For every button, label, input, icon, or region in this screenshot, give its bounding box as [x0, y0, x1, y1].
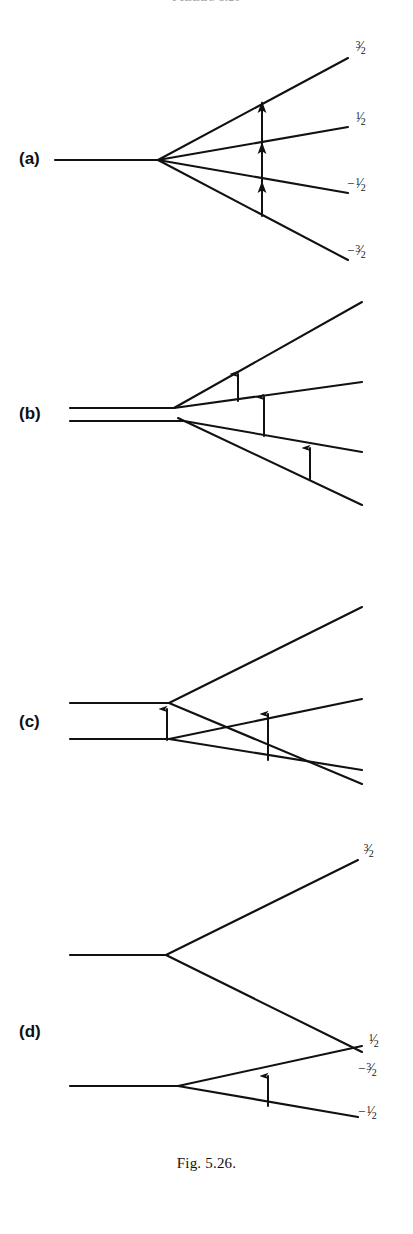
fraction-denominator: 2 [361, 182, 366, 193]
panel-c-levels [70, 607, 362, 784]
minus-sign: − [358, 1061, 366, 1076]
panel-b-branch-4 [178, 418, 362, 505]
level-label-d-1-2: 1⁄2 [368, 1033, 380, 1047]
panel-d-branch-1-2 [166, 955, 362, 1052]
panel-d-branch-m3-2 [178, 1046, 362, 1086]
figure-caption: Fig. 5.26. [0, 1155, 413, 1172]
panel-a-levels [55, 58, 348, 260]
level-label-a-m3-2: −3⁄2 [347, 244, 367, 258]
minus-sign: − [347, 176, 355, 191]
level-label-a-3-2: 3⁄2 [355, 40, 367, 54]
level-label-a-1-2: 1⁄2 [355, 111, 367, 125]
fraction-denominator: 2 [372, 1067, 377, 1078]
panel-b-branch-1 [174, 302, 362, 408]
panel-letter-d: (d) [19, 1022, 41, 1042]
level-label-d-3-2: 3⁄2 [363, 843, 375, 857]
fraction-denominator: 2 [369, 848, 374, 859]
fraction-denominator: 2 [374, 1038, 379, 1049]
minus-sign: − [347, 243, 355, 258]
panel-b-levels [70, 302, 362, 505]
fraction-denominator: 2 [361, 116, 366, 127]
panel-d-levels [70, 860, 362, 1117]
fraction-denominator: 2 [372, 1110, 377, 1121]
level-label-d-m3-2: −3⁄2 [358, 1062, 378, 1076]
panel-letter-a: (a) [19, 149, 40, 169]
fraction-denominator: 2 [361, 45, 366, 56]
panel-letter-c: (c) [19, 712, 40, 732]
panel-c-branch-3 [169, 699, 362, 739]
panel-d-branch-3-2 [166, 860, 358, 955]
level-label-a-m1-2: −1⁄2 [347, 177, 367, 191]
panel-a-branch-m3-2 [158, 160, 348, 260]
panel-letter-b: (b) [19, 404, 41, 424]
panel-a-branch-3-2 [158, 58, 348, 160]
minus-sign: − [358, 1104, 366, 1119]
panel-b-branch-2 [174, 382, 362, 408]
panel-b-branch-3 [184, 421, 362, 452]
level-label-d-m1-2: −1⁄2 [358, 1105, 378, 1119]
fraction-denominator: 2 [361, 249, 366, 260]
panel-a-branch-m1-2 [158, 160, 348, 193]
panel-c-branch-1 [169, 607, 362, 703]
panel-a-branch-1-2 [158, 127, 348, 160]
